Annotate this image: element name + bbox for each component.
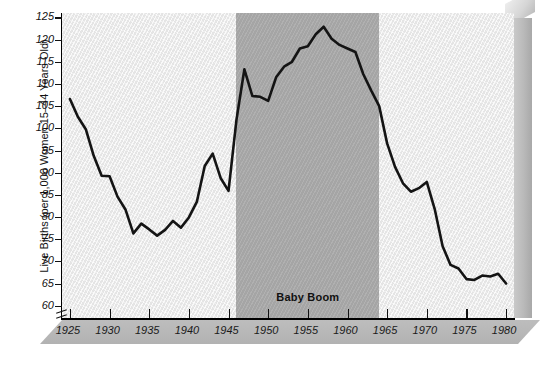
y-tick-115 xyxy=(55,62,62,63)
y-tick-75 xyxy=(55,239,62,240)
x-tick-1935 xyxy=(149,309,150,318)
y-tick-65 xyxy=(55,284,62,285)
y-tick-120 xyxy=(55,40,62,41)
plot-area: Baby Boom xyxy=(62,13,514,319)
x-axis-line xyxy=(61,318,515,320)
x-tick-1970 xyxy=(427,309,428,318)
y-tick-100 xyxy=(55,128,62,129)
x-tick-1945 xyxy=(229,309,230,318)
y-tick-95 xyxy=(55,151,62,152)
y-tick-90 xyxy=(55,173,62,174)
x-tick-1965 xyxy=(387,309,388,318)
y-tick-110 xyxy=(55,84,62,85)
y-tick-125 xyxy=(55,17,62,18)
y-axis-title: Live Births (per 1,000 Women 15–44 Years… xyxy=(38,6,50,306)
y-axis-line xyxy=(61,13,62,319)
x-tick-1960 xyxy=(348,309,349,318)
y-tick-60 xyxy=(55,306,62,307)
y-tick-80 xyxy=(55,217,62,218)
y-tick-85 xyxy=(55,195,62,196)
x-tick-1940 xyxy=(189,309,190,318)
x-tick-1950 xyxy=(268,309,269,318)
x-tick-1955 xyxy=(308,309,309,318)
x-tick-1925 xyxy=(70,309,71,318)
x-tick-1930 xyxy=(110,309,111,318)
x-tick-label-1980: 1980 xyxy=(481,324,527,336)
x-tick-1975 xyxy=(466,309,467,318)
birth-rate-line xyxy=(62,13,514,319)
panel-right-face xyxy=(514,18,532,318)
x-tick-1980 xyxy=(506,309,507,318)
y-tick-70 xyxy=(55,261,62,262)
y-tick-105 xyxy=(55,106,62,107)
chart-figure: Baby Boom 125120115110105100959085807570… xyxy=(0,0,555,368)
